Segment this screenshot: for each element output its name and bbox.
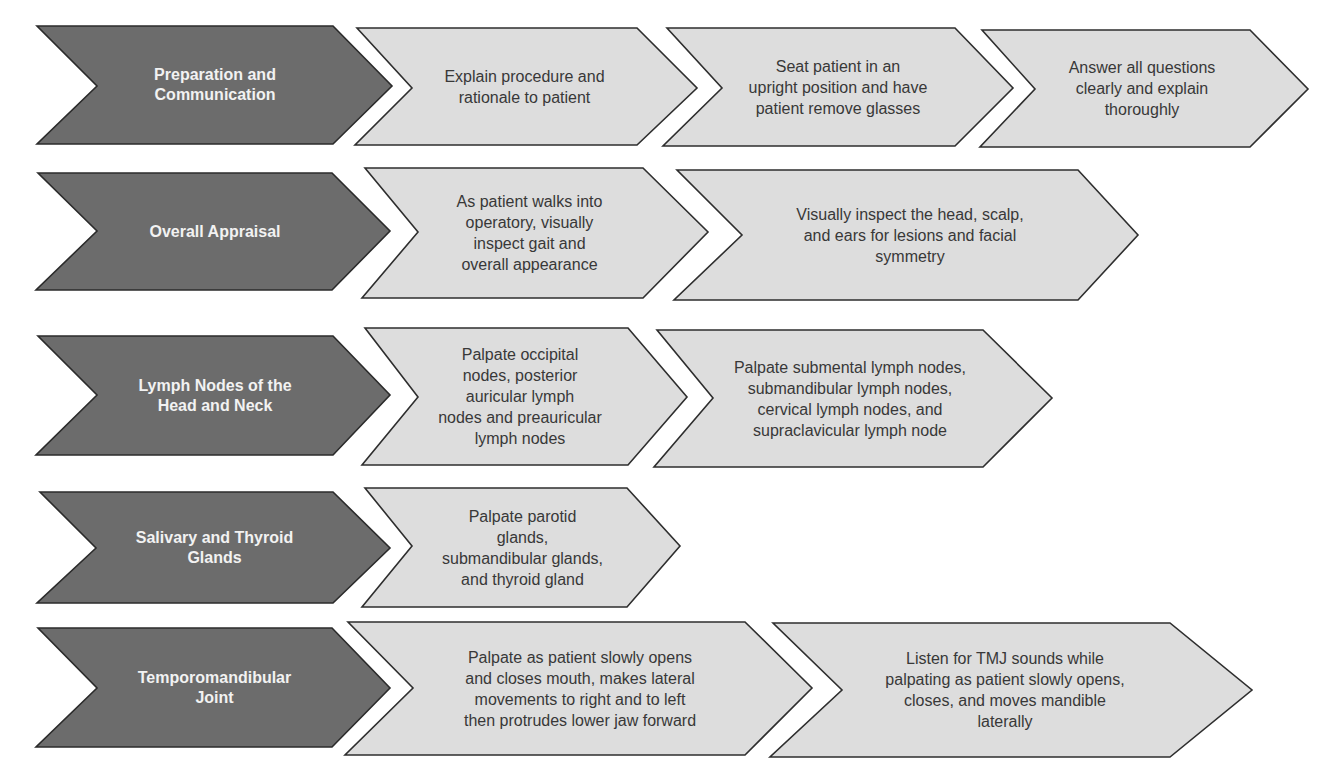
step-line: patient remove glasses — [749, 98, 928, 119]
step-label-2-2: Visually inspect the head, scalp,and ear… — [740, 170, 1080, 300]
step-line: thoroughly — [1069, 99, 1216, 120]
step-line: Palpate as patient slowly opens — [464, 647, 696, 668]
category-label-lymph: Lymph Nodes of theHead and Neck — [97, 336, 333, 455]
category-line: Preparation and — [154, 65, 276, 85]
step-line: movements to right and to left — [464, 689, 696, 710]
step-line: Explain procedure and — [444, 66, 604, 87]
step-line: then protrudes lower jaw forward — [464, 710, 696, 731]
step-label-4-1: Palpate parotidglands,submandibular glan… — [405, 488, 640, 607]
step-line: glands, — [442, 527, 603, 548]
step-line: nodes, posterior — [438, 365, 602, 386]
step-label-1-3: Answer all questionsclearly and explaint… — [1032, 30, 1252, 147]
category-label-salivary: Salivary and ThyroidGlands — [96, 492, 333, 603]
category-line: Glands — [136, 548, 293, 568]
step-line: Answer all questions — [1069, 57, 1216, 78]
step-line: Palpate occipital — [438, 344, 602, 365]
category-line: Salivary and Thyroid — [136, 528, 293, 548]
step-line: and thyroid gland — [442, 569, 603, 590]
step-line: inspect gait and — [457, 233, 603, 254]
step-line: lymph nodes — [438, 428, 602, 449]
step-line: operatory, visually — [457, 212, 603, 233]
step-line: supraclavicular lymph node — [734, 420, 966, 441]
step-line: laterally — [885, 711, 1124, 732]
category-line: Lymph Nodes of the — [138, 376, 291, 396]
step-line: Palpate submental lymph nodes, — [734, 357, 966, 378]
category-label-appraisal: Overall Appraisal — [97, 173, 333, 290]
step-line: Visually inspect the head, scalp, — [796, 204, 1023, 225]
step-line: upright position and have — [749, 77, 928, 98]
step-label-5-1: Palpate as patient slowly opensand close… — [410, 622, 750, 755]
step-line: As patient walks into — [457, 191, 603, 212]
step-line: and closes mouth, makes lateral — [464, 668, 696, 689]
step-line: clearly and explain — [1069, 78, 1216, 99]
step-line: submandibular lymph nodes, — [734, 378, 966, 399]
step-label-5-2: Listen for TMJ sounds whilepalpating as … — [845, 623, 1165, 757]
step-line: closes, and moves mandible — [885, 690, 1124, 711]
category-label-tmj: TemporomandibularJoint — [97, 628, 332, 747]
category-label-preparation: Preparation andCommunication — [97, 26, 333, 144]
category-line: Temporomandibular — [138, 668, 292, 688]
step-label-1-1: Explain procedure andrationale to patien… — [412, 28, 637, 145]
category-line: Overall Appraisal — [149, 222, 280, 242]
step-line: nodes and preauricular — [438, 407, 602, 428]
step-line: Seat patient in an — [749, 56, 928, 77]
exam-flow-diagram: Preparation andCommunication Explain pro… — [0, 0, 1322, 777]
step-line: Palpate parotid — [442, 506, 603, 527]
step-line: auricular lymph — [438, 386, 602, 407]
step-line: Listen for TMJ sounds while — [885, 648, 1124, 669]
step-line: palpating as patient slowly opens, — [885, 669, 1124, 690]
step-label-1-2: Seat patient in anupright position and h… — [718, 28, 958, 146]
category-line: Joint — [138, 688, 292, 708]
step-line: overall appearance — [457, 254, 603, 275]
category-line: Head and Neck — [138, 396, 291, 416]
step-line: and ears for lesions and facial — [796, 225, 1023, 246]
step-line: rationale to patient — [444, 87, 604, 108]
step-line: submandibular glands, — [442, 548, 603, 569]
step-label-2-1: As patient walks intooperatory, visually… — [412, 168, 647, 298]
step-label-3-1: Palpate occipitalnodes, posteriorauricul… — [400, 328, 640, 465]
step-line: symmetry — [796, 246, 1023, 267]
category-line: Communication — [154, 85, 276, 105]
step-label-3-2: Palpate submental lymph nodes,submandibu… — [695, 330, 1005, 467]
step-line: cervical lymph nodes, and — [734, 399, 966, 420]
